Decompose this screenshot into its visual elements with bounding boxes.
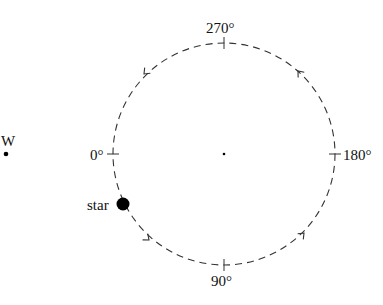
label-180: 180° bbox=[343, 147, 372, 163]
label-0: 0° bbox=[90, 147, 104, 163]
arrow-bottom-left-icon bbox=[143, 234, 152, 243]
label-270: 270° bbox=[206, 20, 235, 36]
center-dot bbox=[223, 153, 226, 156]
label-w: W bbox=[1, 133, 16, 149]
label-star: star bbox=[87, 197, 109, 213]
arrow-bottom-right-icon bbox=[298, 230, 307, 239]
label-90: 90° bbox=[211, 273, 232, 289]
orbit-diagram: 270° 90° 0° 180° star W bbox=[0, 0, 383, 305]
star-marker bbox=[117, 198, 130, 211]
w-marker bbox=[4, 152, 9, 157]
